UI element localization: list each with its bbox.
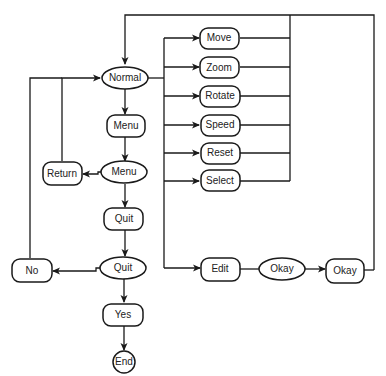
- edge-quit-no: [53, 268, 100, 271]
- node-rotate-label: Rotate: [205, 90, 235, 101]
- node-return: Return: [43, 162, 82, 185]
- node-select: Select: [201, 170, 240, 191]
- node-reset-label: Reset: [207, 147, 233, 158]
- node-menu-box-label: Menu: [113, 120, 138, 131]
- edge-loop-top: [125, 15, 374, 270]
- node-menu-ellipse: Menu: [101, 161, 147, 183]
- node-no: No: [12, 259, 52, 282]
- node-move-label: Move: [207, 32, 232, 43]
- node-okay-box: Okay: [326, 259, 364, 283]
- node-zoom: Zoom: [200, 57, 239, 78]
- node-speed: Speed: [201, 115, 240, 136]
- node-menu-box: Menu: [107, 115, 145, 137]
- node-menu-ellipse-label: Menu: [111, 166, 136, 177]
- node-speed-label: Speed: [206, 119, 235, 130]
- edge-menu-return: [83, 172, 101, 174]
- node-move: Move: [200, 28, 239, 49]
- node-end: End: [113, 351, 135, 373]
- node-okay-ellipse-label: Okay: [270, 263, 293, 274]
- node-no-label: No: [26, 265, 39, 276]
- node-normal-label: Normal: [109, 72, 141, 83]
- node-return-label: Return: [47, 168, 77, 179]
- node-yes-label: Yes: [115, 309, 131, 320]
- node-zoom-label: Zoom: [206, 62, 232, 73]
- node-quit-ellipse: Quit: [100, 257, 146, 279]
- flowchart-canvas: Normal Menu Menu Return Quit Quit No Yes…: [0, 0, 386, 376]
- node-edit: Edit: [201, 258, 240, 281]
- node-end-label: End: [115, 356, 133, 367]
- node-okay-ellipse: Okay: [259, 258, 305, 280]
- edge-return-normal: [62, 78, 100, 161]
- node-normal: Normal: [102, 67, 148, 89]
- node-okay-box-label: Okay: [333, 265, 356, 276]
- node-edit-label: Edit: [211, 263, 228, 274]
- node-rotate: Rotate: [200, 86, 240, 107]
- node-quit-box-label: Quit: [115, 213, 134, 224]
- node-yes: Yes: [103, 304, 143, 326]
- node-select-label: Select: [206, 175, 234, 186]
- node-reset: Reset: [201, 143, 240, 164]
- node-quit-box: Quit: [104, 208, 143, 230]
- node-quit-ellipse-label: Quit: [114, 262, 133, 273]
